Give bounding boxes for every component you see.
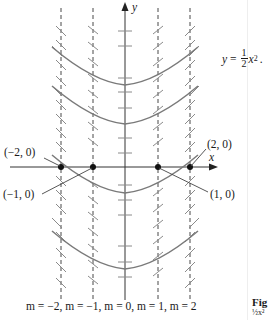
point-1 — [155, 164, 161, 170]
equation-lhs: y — [222, 53, 227, 65]
x-axis-arrow-icon — [209, 164, 218, 171]
leader-neg1 — [42, 168, 92, 194]
equation-exponent: 2 — [254, 54, 258, 63]
point-label-neg2: (−2, 0) — [4, 147, 35, 159]
slope-marks-m2 — [185, 26, 199, 288]
leader-1 — [159, 168, 208, 192]
equation-equals: = — [230, 53, 237, 65]
point-label-1: (1, 0) — [210, 189, 235, 201]
y-axis-arrow-icon — [122, 2, 129, 11]
point-neg1 — [90, 164, 96, 170]
equation-label: y = 1 2 x 2 . — [222, 48, 263, 69]
point-label-2: (2, 0) — [207, 139, 232, 151]
equation-fraction: 1 2 — [241, 48, 248, 69]
point-neg2 — [58, 164, 64, 170]
fraction-denominator: 2 — [242, 59, 247, 69]
side-figure-title: Fig — [252, 296, 267, 308]
isocline-caption: m = −2, m = −1, m = 0, m = 1, m = 2 — [26, 300, 197, 312]
y-axis-label: y — [132, 2, 137, 14]
point-label-neg1: (−1, 0) — [3, 189, 34, 201]
side-figure-text: ½x² — [252, 308, 264, 317]
leader-2 — [191, 149, 206, 166]
x-axis-label: x — [209, 152, 214, 164]
equation-trailing: . — [260, 53, 263, 65]
